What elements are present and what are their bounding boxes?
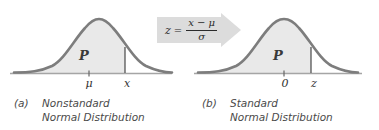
caption-tag-a: (a) — [14, 96, 29, 110]
shaded-probability-area — [14, 19, 125, 73]
panel-nonstandard-normal: P μ x (a) Nonstandard Normal Distributio… — [0, 0, 182, 130]
caption-line2-a: Normal Distribution — [42, 110, 184, 124]
caption-line1-b: Standard — [230, 96, 377, 110]
standard-normal-curve-graphic — [190, 6, 379, 82]
tick-label-zero: 0 — [278, 77, 292, 90]
tick-label-x: x — [120, 77, 134, 90]
caption-tag-b: (b) — [202, 96, 217, 110]
probability-label-b: P — [273, 48, 283, 63]
panel-standard-normal: P 0 z (b) Standard Normal Distribution — [190, 0, 379, 130]
caption-panel-a: (a) Nonstandard Normal Distribution — [14, 96, 184, 124]
caption-panel-b: (b) Standard Normal Distribution — [202, 96, 377, 124]
probability-label-a: P — [79, 48, 89, 63]
formula-variable: z — [165, 24, 171, 37]
nonstandard-normal-curve-graphic — [0, 6, 182, 82]
tick-label-mu: μ — [82, 77, 96, 90]
caption-line1-a: Nonstandard — [42, 96, 184, 110]
caption-line2-b: Normal Distribution — [230, 110, 377, 124]
normal-distribution-figure: P μ x (a) Nonstandard Normal Distributio… — [0, 0, 379, 130]
tick-label-z: z — [307, 77, 321, 90]
formula-equals: = — [174, 25, 182, 36]
